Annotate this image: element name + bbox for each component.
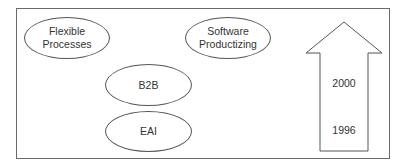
year-label-1996: 1996	[320, 124, 368, 136]
year-label-2000: 2000	[320, 77, 368, 89]
